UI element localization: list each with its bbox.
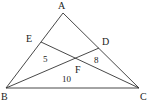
area-label-bef: 5 (43, 54, 48, 64)
area-label-cdf: 8 (94, 55, 99, 65)
segment-bd (6, 48, 99, 88)
point-label-a: A (58, 0, 66, 11)
point-label-f: F (75, 64, 81, 75)
segment-ac (63, 13, 139, 88)
area-label-bfc: 10 (62, 74, 72, 84)
segment-ce (41, 42, 139, 88)
point-label-c: C (140, 91, 147, 102)
point-label-d: D (102, 36, 109, 47)
triangle-diagram: A B C D E F 5 8 10 (0, 0, 148, 102)
point-label-e: E (26, 33, 32, 44)
point-label-b: B (1, 91, 8, 102)
segment-ab (6, 13, 63, 88)
